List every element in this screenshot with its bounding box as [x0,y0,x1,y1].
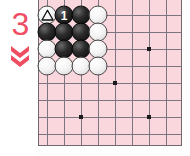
stone-move-number: 1 [56,7,73,24]
go-diagram-root: 3 1 [0,0,190,156]
move-number-label: 3 [5,8,35,40]
grid-line-horizontal [39,134,181,135]
white-stone[interactable] [89,57,108,76]
grid-line-horizontal [39,117,181,118]
double-chevron-down-icon [5,42,35,70]
margin-annotation-panel: 3 [0,0,38,156]
grid-line-vertical [132,0,133,145]
go-board-wrapper: 1 [38,0,184,152]
grid-line-vertical [166,0,167,145]
star-point [113,81,117,85]
grid-line-vertical [115,0,116,145]
star-point [147,47,151,51]
go-board[interactable]: 1 [38,0,182,146]
triangle-marker-icon [39,7,56,24]
star-point [147,115,151,119]
star-point [79,115,83,119]
grid-line-vertical [149,0,150,145]
grid-line-horizontal [39,83,181,84]
grid-line-horizontal [39,100,181,101]
